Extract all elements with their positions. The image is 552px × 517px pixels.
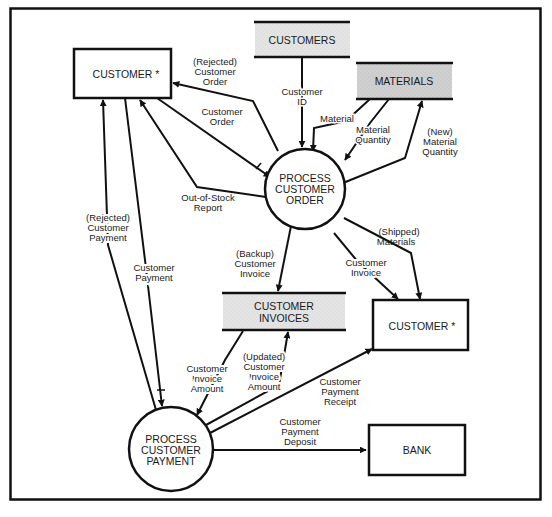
label-rejected-customer-order: (Rejected) Customer Order	[193, 56, 237, 87]
label-out-of-stock-report: Out-of-Stock Report	[181, 192, 235, 213]
entity-customer-right-label: CUSTOMER *	[389, 320, 456, 332]
label-customer-id: Customer ID	[281, 86, 322, 107]
flow-customer-payment[interactable]	[125, 98, 162, 406]
entity-bank[interactable]: BANK	[369, 425, 465, 475]
process-order-line-3: ORDER	[286, 194, 324, 206]
label-customer-invoice-amount: Customer Invoice Amount	[186, 363, 227, 394]
flow-rejected-customer-payment[interactable]	[103, 100, 156, 410]
svg-text:Payment: Payment	[135, 272, 173, 283]
entity-bank-label: BANK	[403, 444, 432, 456]
svg-text:Amount: Amount	[191, 383, 224, 394]
svg-text:Amount: Amount	[248, 381, 281, 392]
svg-text:Invoice: Invoice	[240, 268, 270, 279]
store-materials-label: MATERIALS	[375, 75, 434, 87]
entity-customer-top-label: CUSTOMER *	[93, 68, 160, 80]
label-material: Material	[320, 113, 354, 124]
entity-customer-right[interactable]: CUSTOMER *	[373, 300, 468, 350]
process-customer-order[interactable]: PROCESS CUSTOMER ORDER	[265, 149, 345, 229]
flow-backup-customer-invoice[interactable]	[278, 226, 291, 291]
label-material-quantity: Material Quantity	[355, 124, 391, 145]
svg-text:Payment: Payment	[89, 232, 127, 243]
store-customer-invoices-label-1: CUSTOMER	[254, 300, 314, 312]
svg-text:Report: Report	[194, 202, 223, 213]
flow-labels: (Rejected) Customer Order Customer Order…	[86, 56, 458, 447]
label-customer-order: Customer Order	[201, 106, 242, 127]
svg-text:Order: Order	[203, 76, 227, 87]
label-customer-invoice: Customer Invoice	[345, 257, 386, 278]
label-updated-customer-invoice-amount: (Updated) Customer Invoice Amount	[243, 351, 285, 392]
label-customer-payment: Customer Payment	[133, 262, 174, 283]
label-shipped-materials: (Shipped) Materials	[377, 226, 420, 247]
label-customer-payment-receipt: Customer Payment Receipt	[319, 376, 360, 407]
svg-text:Quantity: Quantity	[422, 146, 458, 157]
svg-text:Material: Material	[320, 113, 354, 124]
label-new-material-quantity: (New) Material Quantity	[422, 126, 458, 157]
store-customer-invoices-label-2: INVOICES	[259, 312, 309, 324]
label-rejected-customer-payment: (Rejected) Customer Payment	[86, 212, 130, 243]
svg-text:ID: ID	[297, 96, 307, 107]
store-customers-label: CUSTOMERS	[269, 34, 336, 46]
process-customer-payment[interactable]: PROCESS CUSTOMER PAYMENT	[129, 407, 213, 491]
entity-customer-top[interactable]: CUSTOMER *	[74, 49, 171, 98]
store-materials[interactable]: MATERIALS	[356, 63, 453, 99]
svg-text:Invoice: Invoice	[351, 267, 381, 278]
svg-text:Quantity: Quantity	[355, 134, 391, 145]
label-customer-payment-deposit: Customer Payment Deposit	[279, 416, 320, 447]
svg-text:Materials: Materials	[377, 236, 416, 247]
label-backup-customer-invoice: (Backup) Customer Invoice	[234, 248, 275, 279]
svg-text:Order: Order	[210, 116, 234, 127]
store-customers[interactable]: CUSTOMERS	[254, 22, 350, 57]
store-customer-invoices[interactable]: CUSTOMER INVOICES	[222, 293, 346, 330]
svg-text:Receipt: Receipt	[324, 396, 357, 407]
svg-text:Deposit: Deposit	[284, 436, 317, 447]
process-payment-line-3: PAYMENT	[146, 455, 196, 467]
data-flow-diagram: CUSTOMERS MATERIALS CUSTOMER INVOICES CU…	[0, 0, 552, 517]
